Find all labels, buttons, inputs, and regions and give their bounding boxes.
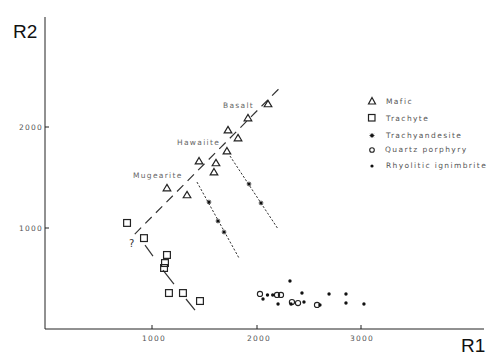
data-point (318, 303, 321, 306)
data-point (302, 300, 305, 303)
series-annotations: Basalt Hawaiite Mugearite ? (129, 101, 254, 249)
data-point (224, 126, 232, 132)
data-point (222, 230, 227, 235)
data-point (197, 298, 204, 305)
data-point (295, 300, 300, 305)
trend-lines (135, 88, 280, 310)
y-axis-title: R2 (13, 21, 37, 42)
data-point (327, 292, 330, 295)
legend-label-rhyolitic-ignimbrite: Rhyolitic ignimbrite (386, 161, 487, 170)
legend-item-quartz-porphyry: Quartz porphyry (370, 145, 468, 154)
x-tick-label-3000: 3000 (350, 334, 374, 343)
data-point (344, 292, 347, 295)
data-point (195, 157, 203, 163)
data-point (124, 220, 131, 227)
open-circle-icon (370, 148, 375, 153)
data-point (223, 147, 231, 153)
mafic-trend-line (135, 88, 280, 234)
star-icon (370, 133, 375, 138)
data-point (163, 184, 171, 190)
filled-dot-icon (370, 164, 373, 167)
basalt-label: Basalt (223, 101, 254, 110)
data-point (266, 293, 269, 296)
y-tick-label-1000: 1000 (19, 224, 43, 233)
hawaiite-label: Hawaiite (177, 138, 220, 147)
data-point (247, 182, 252, 187)
legend-label-trachyte: Trachyte (385, 114, 429, 123)
data-point (244, 114, 252, 120)
trachyandesite-trend-right-line (230, 156, 278, 229)
data-point (234, 134, 242, 140)
series-trachyte (124, 220, 204, 305)
data-point (261, 297, 264, 300)
legend-item-mafic: Mafic (369, 97, 413, 106)
open-triangle-icon (369, 98, 376, 105)
data-point (271, 293, 274, 296)
legend-label-mafic: Mafic (386, 97, 413, 106)
data-point (210, 168, 218, 174)
data-points (124, 100, 366, 307)
question-mark-label: ? (129, 238, 134, 249)
data-point (212, 159, 220, 165)
scatter-chart: 2000 1000 1000 2000 3000 R2 R1 Basalt Ha… (0, 0, 499, 361)
data-point (180, 290, 187, 297)
legend-label-trachyandesite: Trachyandesite (385, 131, 462, 140)
data-point (276, 302, 279, 305)
data-point (300, 291, 303, 294)
data-point (141, 235, 148, 242)
data-point (259, 201, 264, 206)
x-tick-label-1000: 1000 (142, 334, 166, 343)
trachyte-trend-line (163, 270, 174, 284)
series-mafic (163, 100, 272, 197)
data-point (166, 290, 173, 297)
legend-item-trachyandesite: Trachyandesite (370, 131, 463, 140)
open-square-icon (369, 115, 376, 122)
data-point (207, 200, 212, 205)
legend: Mafic Trachyte Trachyandesite Quartz por… (369, 97, 488, 170)
data-point (288, 279, 291, 282)
data-point (257, 291, 262, 296)
data-point (183, 191, 191, 197)
x-axis-title: R1 (461, 335, 485, 356)
legend-item-rhyolitic-ignimbrite: Rhyolitic ignimbrite (370, 161, 487, 170)
y-tick-label-2000: 2000 (19, 123, 43, 132)
data-point (264, 100, 272, 106)
x-tick-label-2000: 2000 (247, 334, 271, 343)
trachyte-trend-line (186, 299, 195, 310)
data-point (164, 252, 171, 259)
series-trachyandesite (207, 182, 264, 235)
legend-item-trachyte: Trachyte (369, 114, 430, 123)
data-point (289, 302, 292, 305)
axes: 2000 1000 1000 2000 3000 R2 R1 (13, 17, 485, 356)
trachyte-trend-line (145, 245, 153, 256)
data-point (362, 302, 365, 305)
data-point (344, 301, 347, 304)
series-rhyolitic-ignimbrite (261, 279, 365, 306)
data-point (216, 219, 221, 224)
mugearite-label: Mugearite (133, 171, 183, 180)
legend-label-quartz-porphyry: Quartz porphyry (385, 145, 468, 154)
